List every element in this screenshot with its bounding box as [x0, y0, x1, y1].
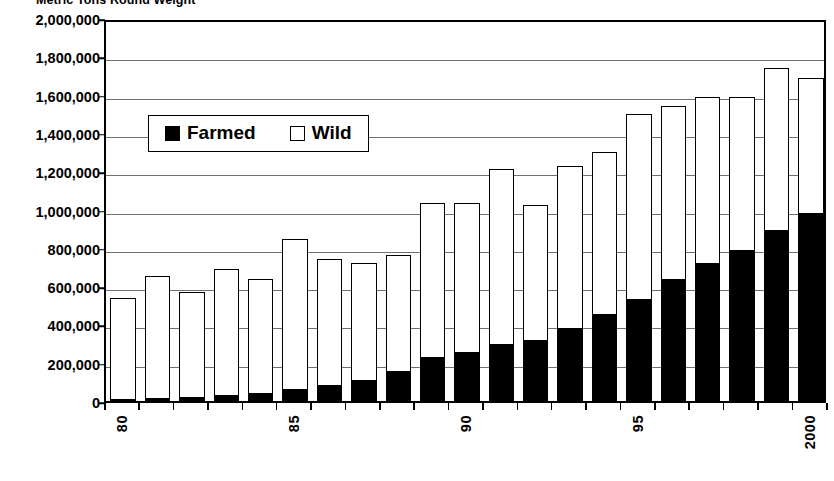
bar-group[interactable] [282, 239, 307, 401]
bar-segment-wild[interactable] [214, 269, 239, 396]
y-axis-tick-label: 1,600,000 [4, 89, 100, 105]
bar-segment-farmed[interactable] [798, 214, 823, 401]
legend-swatch-icon [290, 126, 305, 141]
y-axis-tick-label: 1,200,000 [4, 165, 100, 181]
bar-group[interactable] [454, 203, 479, 401]
bar-segment-farmed[interactable] [661, 280, 686, 401]
x-axis-tick-mark [345, 403, 347, 410]
bar-segment-farmed[interactable] [351, 381, 376, 401]
bar-segment-wild[interactable] [454, 203, 479, 353]
legend-item-farmed[interactable]: Farmed [165, 122, 256, 144]
bar-segment-farmed[interactable] [592, 315, 617, 401]
bar-segment-farmed[interactable] [557, 329, 582, 401]
bar-segment-wild[interactable] [317, 259, 342, 385]
legend-item-wild[interactable]: Wild [290, 122, 352, 144]
bar-segment-wild[interactable] [661, 106, 686, 280]
x-axis: 808590952000 [104, 403, 826, 481]
bar-segment-wild[interactable] [729, 97, 754, 251]
x-axis-tick-mark [723, 403, 725, 410]
bar-group[interactable] [557, 166, 582, 401]
bar-group[interactable] [523, 205, 548, 401]
bar-segment-wild[interactable] [420, 203, 445, 358]
bar-segment-farmed[interactable] [729, 251, 754, 401]
bar-group[interactable] [110, 298, 135, 401]
bar-segment-farmed[interactable] [317, 386, 342, 401]
x-axis-tick-mark [551, 403, 553, 410]
bar-segment-farmed[interactable] [248, 394, 273, 401]
bar-segment-farmed[interactable] [386, 372, 411, 401]
x-axis-tick-label: 85 [286, 415, 302, 432]
bar-group[interactable] [145, 276, 170, 401]
bar-segment-wild[interactable] [592, 152, 617, 315]
bar-segment-farmed[interactable] [179, 398, 204, 401]
bar-segment-farmed[interactable] [145, 399, 170, 401]
bar-segment-wild[interactable] [764, 68, 789, 231]
bar-group[interactable] [386, 255, 411, 401]
bar-group[interactable] [729, 97, 754, 401]
y-axis-tick-label: 800,000 [4, 242, 100, 258]
bar-segment-farmed[interactable] [764, 231, 789, 401]
x-axis-tick-mark [104, 403, 106, 410]
bar-group[interactable] [420, 203, 445, 401]
bar-group[interactable] [661, 106, 686, 401]
bar-segment-wild[interactable] [557, 166, 582, 329]
bar-segment-wild[interactable] [523, 205, 548, 341]
x-axis-tick-label: 2000 [802, 415, 818, 449]
bar-segment-wild[interactable] [145, 276, 170, 400]
bar-segment-farmed[interactable] [110, 399, 135, 401]
bar-segment-wild[interactable] [386, 255, 411, 372]
bar-segment-farmed[interactable] [454, 353, 479, 401]
bar-group[interactable] [764, 68, 789, 401]
bar-group[interactable] [626, 114, 651, 401]
bar-segment-wild[interactable] [248, 279, 273, 394]
y-axis-tick-label: 600,000 [4, 280, 100, 296]
x-axis-tick-mark [792, 403, 794, 410]
bar-group[interactable] [248, 279, 273, 401]
bar-segment-wild[interactable] [626, 114, 651, 301]
bar-group[interactable] [695, 97, 720, 401]
legend-swatch-icon [165, 126, 180, 141]
x-axis-tick-mark [826, 403, 828, 410]
x-axis-tick-mark [310, 403, 312, 410]
bar-group[interactable] [179, 292, 204, 401]
bar-segment-wild[interactable] [798, 78, 823, 214]
x-axis-tick-mark [276, 403, 278, 410]
bar-segment-farmed[interactable] [489, 345, 514, 401]
bar-segment-farmed[interactable] [214, 396, 239, 401]
bar-segment-wild[interactable] [110, 298, 135, 400]
y-axis-tick-label: 200,000 [4, 357, 100, 373]
bar-segment-wild[interactable] [282, 239, 307, 390]
x-axis-tick-mark [620, 403, 622, 410]
x-axis-tick-mark [242, 403, 244, 410]
bar-segment-wild[interactable] [351, 263, 376, 381]
x-axis-tick-mark [448, 403, 450, 410]
x-axis-tick-mark [585, 403, 587, 410]
bar-group[interactable] [351, 263, 376, 401]
x-axis-tick-mark [413, 403, 415, 410]
bar-segment-wild[interactable] [489, 169, 514, 344]
bar-segment-farmed[interactable] [695, 264, 720, 401]
x-axis-tick-mark [482, 403, 484, 410]
x-axis-tick-label: 80 [114, 415, 130, 432]
bar-segment-farmed[interactable] [626, 300, 651, 401]
chart-legend: FarmedWild [148, 115, 369, 152]
bar-group[interactable] [798, 78, 823, 401]
bar-segment-farmed[interactable] [523, 341, 548, 401]
bar-group[interactable] [489, 169, 514, 401]
y-axis-tick-label: 2,000,000 [4, 12, 100, 28]
y-axis-tick-label: 1,000,000 [4, 204, 100, 220]
y-axis-tick-label: 1,400,000 [4, 127, 100, 143]
bar-segment-wild[interactable] [179, 292, 204, 398]
bar-group[interactable] [317, 259, 342, 401]
bar-segment-wild[interactable] [695, 97, 720, 265]
x-axis-tick-mark [207, 403, 209, 410]
bar-segment-farmed[interactable] [420, 358, 445, 401]
x-axis-tick-mark [757, 403, 759, 410]
y-axis-tick-label: 0 [4, 395, 100, 411]
bar-segment-farmed[interactable] [282, 390, 307, 401]
bar-group[interactable] [214, 269, 239, 401]
legend-label: Farmed [187, 122, 256, 144]
legend-label: Wild [312, 122, 352, 144]
y-axis: 0200,000400,000600,000800,0001,000,0001,… [0, 0, 100, 481]
bar-group[interactable] [592, 152, 617, 401]
